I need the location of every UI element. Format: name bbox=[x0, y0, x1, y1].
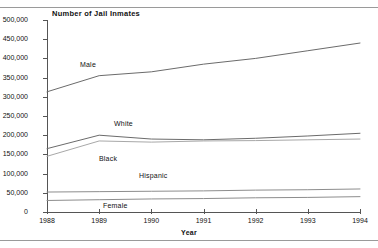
x-tick-label: 1990 bbox=[144, 217, 160, 224]
series-label-hispanic: Hispanic bbox=[139, 172, 167, 179]
series-lines bbox=[47, 20, 360, 213]
y-tick-label: 50,000 bbox=[0, 189, 28, 196]
chart-title: Number of Jail Inmates bbox=[52, 9, 140, 18]
x-tick-label: 1988 bbox=[39, 217, 55, 224]
top-divider bbox=[0, 7, 378, 8]
y-tick-label: 0 bbox=[0, 208, 28, 215]
plot-area: 050,000100,000150,000200,000250,000300,0… bbox=[47, 20, 360, 213]
x-tick-label: 1991 bbox=[196, 217, 212, 224]
x-tick-label: 1993 bbox=[300, 217, 316, 224]
y-tick-label: 500,000 bbox=[0, 16, 28, 23]
y-tick-label: 350,000 bbox=[0, 74, 28, 81]
y-tick-label: 450,000 bbox=[0, 35, 28, 42]
x-tick-label: 1992 bbox=[248, 217, 264, 224]
y-tick-label: 250,000 bbox=[0, 112, 28, 119]
x-tick-label: 1989 bbox=[91, 217, 107, 224]
x-axis-title: Year bbox=[0, 229, 378, 236]
series-label-black: Black bbox=[99, 155, 117, 162]
x-tick-label: 1994 bbox=[352, 217, 368, 224]
y-tick-label: 200,000 bbox=[0, 131, 28, 138]
series-label-male: Male bbox=[80, 61, 96, 68]
bottom-divider bbox=[0, 240, 378, 241]
series-label-white: White bbox=[114, 120, 133, 127]
chart-page: Number of Jail Inmates 050,000100,000150… bbox=[0, 0, 378, 248]
y-tick-label: 150,000 bbox=[0, 150, 28, 157]
x-tick-mark bbox=[360, 209, 361, 214]
y-tick-label: 300,000 bbox=[0, 93, 28, 100]
y-tick-label: 100,000 bbox=[0, 170, 28, 177]
series-line-female bbox=[47, 197, 360, 201]
series-line-black bbox=[47, 139, 360, 156]
y-tick-label: 400,000 bbox=[0, 54, 28, 61]
series-label-female: Female bbox=[103, 202, 128, 209]
series-line-hispanic bbox=[47, 189, 360, 192]
